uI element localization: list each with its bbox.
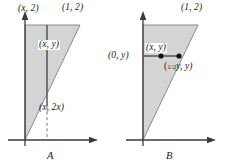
label-b-right-fraction: 1/2 [167,64,176,71]
label-b-right-tail: y, y) [176,61,192,71]
panel-letter-a: A [47,151,53,162]
label-b-interior-point: (x, y) [145,43,167,53]
panel-b: (1, 2) (0, y) (x, y) (1/2y, y) B [118,0,235,168]
label-b-left: (0, y) [108,51,129,61]
label-b-top-right: (1, 2) [181,3,202,13]
label-a-bottom: (x, 2x) [39,103,64,113]
figure-root: (x, 2) (1, 2) (x, y) (x, 2x) A (1, 2) (0… [0,0,235,168]
y-axis-arrow-b [140,11,147,20]
label-a-top-left-text: (x, 2) [18,3,39,13]
label-a-interior-point: (x, y) [38,40,60,50]
point-dot-b-right [176,53,181,58]
point-dot-b-middle [158,53,163,58]
label-b-right: (1/2y, y) [164,62,193,72]
label-b-right-numerator: 1 [167,63,171,71]
label-b-left-text: (0, y) [108,50,129,60]
label-b-top-right-text: (1, 2) [181,2,202,12]
panel-a-graphic [0,0,117,168]
x-axis-arrow-a [89,137,98,144]
label-a-top-right-text: (1, 2) [62,2,83,12]
label-a-bottom-text: (x, 2x) [39,102,64,112]
label-a-interior-point-text: (x, y) [39,39,59,49]
panel-letter-b: B [166,151,172,162]
panel-a: (x, 2) (1, 2) (x, y) (x, 2x) A [0,0,117,168]
x-axis-arrow-b [207,137,216,144]
label-a-top-left: (x, 2) [18,4,39,14]
label-a-top-right: (1, 2) [62,3,83,13]
label-b-interior-point-text: (x, y) [146,42,166,52]
panel-b-graphic [118,0,235,168]
